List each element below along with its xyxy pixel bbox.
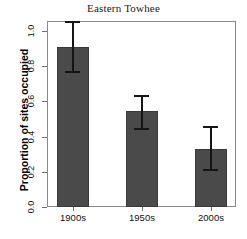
- error-bar-stem-1950s: [141, 95, 143, 129]
- y-tick-label-5: 1.0: [26, 22, 36, 40]
- error-bar-stem-2000s: [210, 126, 212, 170]
- error-bar-cap-lower-1950s: [134, 128, 149, 130]
- y-tick-label-1: 0.2: [26, 163, 36, 181]
- y-tick-mark-2: [42, 137, 47, 138]
- y-tick-mark-0: [42, 207, 47, 208]
- y-tick-label-3: 0.6: [26, 92, 36, 110]
- x-tick-label-1950s: 1950s: [116, 212, 168, 223]
- x-tick-label-2000s: 2000s: [185, 212, 237, 223]
- error-bar-cap-upper-1950s: [134, 95, 149, 97]
- error-bar-cap-lower-2000s: [203, 169, 218, 171]
- y-tick-mark-1: [42, 172, 47, 173]
- page-title: Eastern Towhee: [0, 2, 247, 14]
- x-tick-label-1900s: 1900s: [47, 212, 99, 223]
- chart-figure: Eastern Towhee Proportion of sites occup…: [0, 0, 247, 239]
- error-bar-cap-upper-2000s: [203, 126, 218, 128]
- y-tick-label-0: 0.0: [26, 198, 36, 216]
- y-tick-label-4: 0.8: [26, 57, 36, 75]
- error-bar-cap-upper-1900s: [65, 21, 80, 23]
- x-tick-mark-1900s: [73, 207, 74, 211]
- y-tick-mark-4: [42, 66, 47, 67]
- y-tick-label-2: 0.4: [26, 128, 36, 146]
- y-tick-mark-5: [42, 31, 47, 32]
- x-tick-mark-1950s: [142, 207, 143, 211]
- error-bar-cap-lower-1900s: [65, 71, 80, 73]
- x-tick-mark-2000s: [211, 207, 212, 211]
- y-tick-mark-3: [42, 101, 47, 102]
- error-bar-stem-1900s: [72, 21, 74, 71]
